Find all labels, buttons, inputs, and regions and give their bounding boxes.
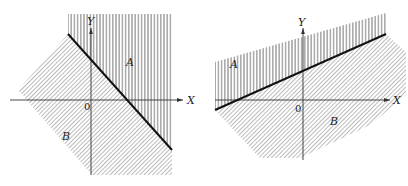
y-axis-label-right: Y xyxy=(298,16,307,29)
origin-label-right: 0 xyxy=(295,103,301,114)
half-planes-diagram: Y X 0 A B Y X 0 A B xyxy=(0,0,408,186)
origin-label-left: 0 xyxy=(84,101,90,112)
region-a-label-right: A xyxy=(229,58,238,71)
right-figure: Y X 0 A B xyxy=(215,13,406,160)
left-figure: Y X 0 A B xyxy=(10,14,196,175)
region-a-label-left: A xyxy=(125,56,134,69)
region-b-label-left: B xyxy=(61,130,70,143)
x-axis-label-left: X xyxy=(186,94,196,107)
region-b-label-right: B xyxy=(329,115,338,128)
x-axis-label-right: X xyxy=(392,94,402,107)
